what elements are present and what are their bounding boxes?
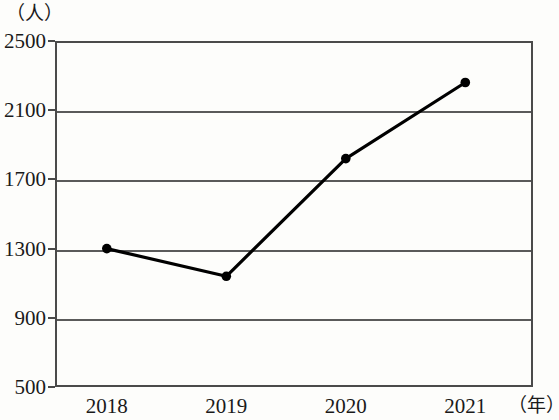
x-tick-label: 2018: [67, 396, 147, 417]
y-tick-label: 2100: [0, 100, 46, 121]
y-tick-label: 500: [0, 377, 46, 398]
line-chart-figure: （人） （年） 2500210017001300900500 201820192…: [0, 0, 559, 420]
y-tick-mark: [48, 386, 55, 388]
y-tick-mark: [48, 317, 55, 319]
x-tick-label: 2019: [186, 396, 266, 417]
x-axis-unit-label: （年）: [508, 396, 559, 415]
x-tick-label: 2021: [425, 396, 505, 417]
y-tick-label: 2500: [0, 31, 46, 52]
y-tick-label: 1300: [0, 239, 46, 260]
y-tick-mark: [48, 109, 55, 111]
y-tick-label: 1700: [0, 169, 46, 190]
gridline: [57, 250, 531, 252]
gridline: [57, 180, 531, 182]
y-tick-label: 900: [0, 308, 46, 329]
gridline: [57, 111, 531, 113]
y-tick-mark: [48, 248, 55, 250]
y-tick-mark: [48, 40, 55, 42]
y-axis-unit-label: （人）: [6, 4, 63, 23]
gridline: [57, 319, 531, 321]
x-tick-label: 2020: [306, 396, 386, 417]
plot-area: [55, 41, 533, 387]
y-tick-mark: [48, 178, 55, 180]
